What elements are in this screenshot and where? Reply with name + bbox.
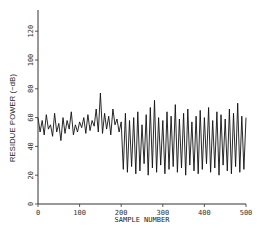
plot-area xyxy=(38,93,246,175)
x-axis-title: SAMPLE NUMBER xyxy=(115,216,171,224)
x-tick-label: 0 xyxy=(36,209,40,217)
y-tick-label: 80 xyxy=(27,85,35,93)
x-tick-label: 100 xyxy=(73,209,86,217)
y-tick-label: 60 xyxy=(27,113,35,121)
y-tick-label: 0 xyxy=(27,202,35,206)
x-tick-label: 400 xyxy=(198,209,211,217)
y-axis: 020406080100120 xyxy=(27,10,38,206)
residue-power-chart: 020406080100120 0100200300400500 SAMPLE … xyxy=(0,0,267,237)
y-axis-title: RESIDUE POWER (−dB) xyxy=(8,74,17,162)
x-tick-label: 500 xyxy=(240,209,253,217)
y-tick-label: 40 xyxy=(27,142,35,150)
data-line xyxy=(38,93,246,175)
y-tick-label: 100 xyxy=(27,54,35,67)
y-tick-label: 120 xyxy=(27,25,35,38)
y-tick-label: 20 xyxy=(27,171,35,179)
